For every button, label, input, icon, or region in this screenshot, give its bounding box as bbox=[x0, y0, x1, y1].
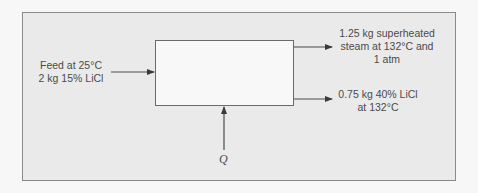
feed-stream-label: Feed at 25°C 2 kg 15% LiCl bbox=[30, 59, 112, 85]
feed-line-1: Feed at 25°C bbox=[30, 59, 112, 72]
steam-line-1: 1.25 kg superheated bbox=[333, 27, 441, 40]
heat-input-label: Q bbox=[219, 152, 228, 167]
liquid-stream-label: 0.75 kg 40% LiCl at 132°C bbox=[333, 88, 423, 114]
steam-line-2: steam at 132°C and bbox=[333, 40, 441, 53]
liquid-line-2: at 132°C bbox=[333, 101, 423, 114]
liquid-line-1: 0.75 kg 40% LiCl bbox=[333, 88, 423, 101]
feed-line-2: 2 kg 15% LiCl bbox=[30, 72, 112, 85]
steam-line-3: 1 atm bbox=[333, 53, 441, 66]
steam-stream-label: 1.25 kg superheated steam at 132°C and 1… bbox=[333, 27, 441, 66]
